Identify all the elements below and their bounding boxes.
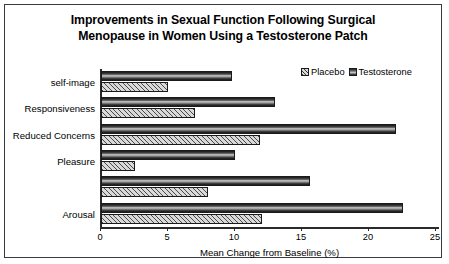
x-axis-tick-label: 15 bbox=[286, 232, 316, 242]
bar-testosterone bbox=[101, 97, 275, 107]
y-axis-category-label: Reduced Concerns bbox=[13, 129, 100, 140]
y-axis-category-label: Pleasure bbox=[57, 156, 100, 167]
bar-placebo bbox=[101, 108, 195, 118]
y-axis-category-label: Arousal bbox=[62, 208, 100, 219]
x-axis-tick-label: 5 bbox=[152, 232, 182, 242]
x-axis-tick bbox=[301, 227, 302, 231]
y-axis-category-label: Responsiveness bbox=[25, 103, 100, 114]
chart-title-line-1: Improvements in Sexual Function Followin… bbox=[5, 12, 441, 28]
bar-testosterone bbox=[101, 203, 403, 213]
plot-area: Mean Change from Baseline (%) 0510152025… bbox=[100, 69, 439, 227]
x-axis-tick bbox=[100, 227, 101, 231]
x-axis-tick-label: 20 bbox=[353, 232, 383, 242]
x-axis-tick bbox=[167, 227, 168, 231]
chart-title: Improvements in Sexual Function Followin… bbox=[5, 12, 441, 44]
x-axis-tick bbox=[435, 227, 436, 231]
x-axis-tick-label: 0 bbox=[85, 232, 115, 242]
bar-placebo bbox=[101, 214, 262, 224]
y-axis-category-label: self-image bbox=[51, 77, 100, 88]
bar-testosterone bbox=[101, 150, 235, 160]
x-axis-line bbox=[100, 227, 439, 229]
x-axis-tick-label: 25 bbox=[420, 232, 449, 242]
bar-placebo bbox=[101, 187, 208, 197]
bar-testosterone bbox=[101, 124, 396, 134]
x-axis-label: Mean Change from Baseline (%) bbox=[100, 247, 439, 258]
bar-testosterone bbox=[101, 176, 310, 186]
bar-placebo bbox=[101, 135, 260, 145]
chart-title-line-2: Menopause in Women Using a Testosterone … bbox=[5, 28, 441, 44]
x-axis-tick bbox=[234, 227, 235, 231]
bar-placebo bbox=[101, 161, 135, 171]
x-axis-tick bbox=[368, 227, 369, 231]
bar-placebo bbox=[101, 82, 168, 92]
bar-testosterone bbox=[101, 71, 232, 81]
chart-frame: Improvements in Sexual Function Followin… bbox=[4, 4, 442, 258]
x-axis-tick-label: 10 bbox=[219, 232, 249, 242]
